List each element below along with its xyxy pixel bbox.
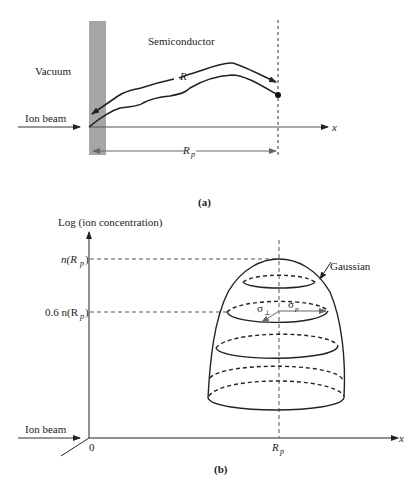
level-label: 0.6 n(R p ): [45, 306, 89, 321]
svg-text:p: p: [79, 259, 84, 268]
panel-b: Log (ion concentration) n(R p ) 0.6 n(R …: [18, 216, 404, 476]
rp-tick-label: R p: [271, 441, 284, 456]
panel-a: Vacuum Semiconductor Ion beam R x R p (a…: [18, 20, 337, 209]
sigma-perp-label: σ ⊥: [257, 302, 271, 317]
ellipse-4-back: [210, 366, 343, 380]
svg-text:0.6 n(R: 0.6 n(R: [45, 306, 79, 319]
svg-text:): ): [85, 253, 89, 266]
svg-text:): ): [85, 306, 89, 319]
svg-text:p: p: [294, 305, 299, 313]
z-axis-b: [61, 438, 89, 456]
gaussian-envelope: [208, 259, 344, 398]
ellipse-bottom-back: [209, 381, 344, 396]
caption-b: (b): [214, 463, 228, 476]
x-axis-label-b: x: [398, 432, 404, 444]
svg-text:p: p: [279, 447, 284, 456]
ellipse-2-back: [227, 301, 328, 312]
peak-label: n(R p ): [61, 253, 89, 268]
svg-text:R: R: [182, 144, 190, 156]
ion-beam-label-a: Ion beam: [25, 112, 67, 124]
svg-text:⊥: ⊥: [264, 309, 271, 317]
ion-beam-label-b: Ion beam: [25, 423, 67, 435]
vacuum-label: Vacuum: [35, 65, 71, 77]
svg-text:σ: σ: [257, 302, 263, 314]
rp-label-a: R p: [182, 144, 195, 159]
ion-stop-point: [275, 92, 281, 98]
gaussian-label: Gaussian: [330, 260, 371, 272]
origin-label: 0: [89, 441, 95, 453]
svg-text:p: p: [79, 312, 84, 321]
semiconductor-label: Semiconductor: [148, 35, 215, 47]
ellipse-3-front: [216, 346, 338, 358]
svg-text:n(R: n(R: [61, 253, 77, 266]
range-path-R: [179, 63, 276, 82]
surface-slab: [89, 21, 106, 155]
svg-text:p: p: [190, 150, 195, 159]
ion-track: [89, 75, 278, 127]
y-axis-label-b: Log (ion concentration): [58, 216, 163, 229]
ellipse-3-back: [216, 334, 338, 348]
caption-a: (a): [198, 196, 211, 209]
ion-implantation-diagram: Vacuum Semiconductor Ion beam R x R p (a…: [0, 0, 418, 486]
range-R-label: R: [179, 70, 187, 82]
ellipse-2-front: [227, 311, 328, 322]
ellipse-bottom-front: [208, 398, 344, 410]
x-axis-label-a: x: [331, 121, 337, 133]
svg-text:R: R: [271, 441, 279, 453]
svg-text:σ: σ: [288, 298, 294, 310]
